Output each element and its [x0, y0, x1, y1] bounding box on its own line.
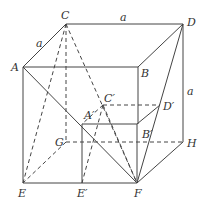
label-e1: E′: [77, 188, 88, 199]
segment-af: [23, 67, 137, 183]
label-h: H: [187, 138, 197, 149]
label-c: C: [61, 10, 69, 21]
label-b: B: [141, 68, 149, 79]
cube-figure: [0, 0, 206, 206]
label-d: D: [187, 17, 196, 28]
label-a: A: [11, 62, 19, 73]
edge-ac: [23, 24, 66, 67]
edge-bd: [138, 24, 183, 67]
label-c1: C′: [104, 93, 115, 104]
label-b1: B′: [142, 129, 153, 140]
label-edge-cd: a: [120, 12, 127, 23]
geometry-diagram: C D A B C′ D′ A′ B′ G H E E′ F a a a: [0, 0, 206, 206]
label-edge-dh: a: [187, 86, 194, 97]
label-edge-ac: a: [36, 38, 43, 49]
label-g: G: [55, 137, 64, 148]
hidden-segment-c1-f: [103, 105, 137, 183]
label-e: E: [18, 188, 26, 199]
label-d1: D′: [163, 101, 174, 112]
label-a1: A′: [84, 110, 94, 121]
segment-df: [137, 24, 183, 183]
edge-fh: [137, 142, 183, 183]
label-f: F: [134, 188, 142, 199]
